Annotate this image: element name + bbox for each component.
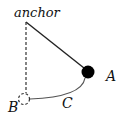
ball-a: [82, 66, 95, 79]
ball-b: [19, 94, 30, 105]
pendulum-diagram: anchor A B C: [0, 0, 122, 120]
label-a: A: [104, 68, 116, 84]
label-b: B: [7, 99, 18, 115]
pendulum-rod: [26, 22, 84, 68]
arc-c: [30, 78, 85, 99]
label-c: C: [62, 95, 73, 111]
anchor-label: anchor: [14, 5, 61, 20]
